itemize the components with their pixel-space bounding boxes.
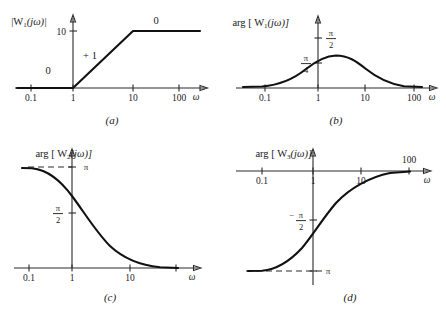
panel-a-caption: (a) [106,114,119,127]
pi-numerator: π [299,210,304,220]
panel-d-caption: (d) [344,291,357,304]
panel-c-xlabel-omega: ω [189,272,196,282]
panel-d: arg [ W3(jω)] 0.1 1 10 100 ω − π 2 π (d) [236,148,431,304]
panel-c-xticklabel-10: 10 [125,273,135,283]
panel-a-xlabel-omega: ω [193,92,200,102]
panel-d-xticklabel-100: 100 [402,155,417,165]
panel-a-ylabel: |W1(jω)| [11,16,47,29]
panel-d-xlabel-omega: ω [424,175,431,185]
panel-c-xticklabel-1: 1 [70,273,75,283]
minus-sign: − [290,210,295,220]
panel-a-xticklabel-10: 10 [128,93,138,103]
panel-a-annotation-zero-left: 0 [45,65,50,76]
panel-d-xticklabel-0.1: 0.1 [256,176,268,186]
pi-numerator: π [329,28,334,38]
panel-a-yticklabel-10: 10 [57,27,67,37]
two-denominator: 2 [329,40,333,50]
panel-a: |W1(jω)| 0.1 1 10 100 10 ω 0 + 1 0 (a) [11,15,207,127]
panel-b-yticklabel-pi-over-2: π 2 [326,28,336,50]
panel-a-annotation-zero-right: 0 [153,15,158,26]
panel-b-xticklabel-1: 1 [316,93,321,103]
two-denominator: 2 [299,222,303,232]
panel-a-xticklabel-0.1: 0.1 [25,93,37,103]
figure-canvas: |W1(jω)| 0.1 1 10 100 10 ω 0 + 1 0 (a) a… [0,0,446,311]
two-denominator: 2 [56,215,60,225]
bode-plot-figure: |W1(jω)| 0.1 1 10 100 10 ω 0 + 1 0 (a) a… [0,0,446,311]
panel-a-xticklabel-100: 100 [172,93,187,103]
panel-a-xticklabel-1: 1 [71,93,76,103]
panel-b-xticklabel-0.1: 0.1 [259,93,271,103]
panel-b-xlabel-omega: ω [429,92,436,102]
panel-c: arg [ W2(jω)] 0.1 1 10 ω π π 2 (c) [14,148,201,304]
panel-c-ylabel: arg [ W2(jω)] [35,148,92,161]
pi-numerator: π [56,203,61,213]
panel-d-yticklabel-minus-pi-over-2: − π 2 [290,210,306,232]
panel-b: arg [ W1(jω)] 0.1 1 10 100 ω π 2 π 4 (b) [232,16,437,127]
panel-d-yticklabel-minus-pi: π [326,266,331,276]
panel-a-annotation-plus-one: + 1 [83,50,97,61]
panel-c-caption: (c) [104,291,117,304]
panel-b-phase-curve [243,56,422,88]
panel-d-ylabel: arg [ W3(jω)] [255,148,312,161]
panel-c-xticklabel-0.1: 0.1 [23,273,35,283]
panel-c-yticklabel-pi-over-2: π 2 [53,203,63,225]
panel-b-caption: (b) [330,114,343,127]
panel-d-phase-curve [248,172,410,272]
panel-d-xticklabel-1: 1 [311,176,316,186]
panel-b-xticklabel-100: 100 [407,93,422,103]
panel-b-ylabel: arg [ W1(jω)] [232,17,289,30]
pi-numerator: π [304,53,309,63]
panel-c-phase-curve [22,168,178,268]
panel-c-yticklabel-pi: π [84,162,89,172]
panel-a-magnitude-curve [17,31,200,88]
panel-b-xticklabel-10: 10 [360,93,370,103]
